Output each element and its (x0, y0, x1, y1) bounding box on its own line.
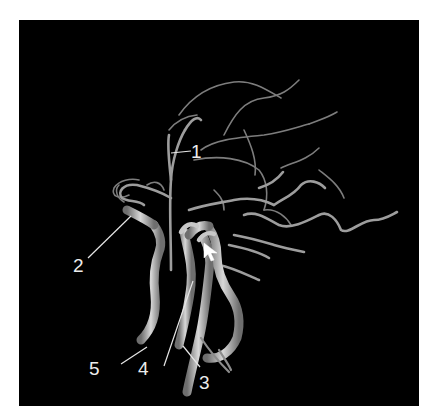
label-4: 4 (138, 359, 149, 378)
arrow-pointer-icon (203, 242, 219, 262)
label-3: 3 (199, 373, 210, 392)
label-1: 1 (191, 142, 202, 161)
vessel-rendering (19, 20, 419, 406)
label-5: 5 (89, 359, 100, 378)
label-2: 2 (73, 256, 84, 275)
angiography-panel: 1 2 3 4 5 (19, 20, 419, 406)
